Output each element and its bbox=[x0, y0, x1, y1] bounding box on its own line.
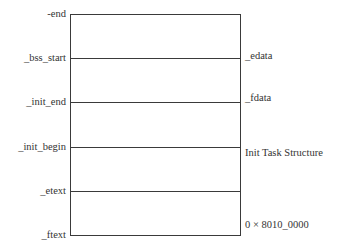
label-edata: _edata bbox=[245, 50, 272, 62]
label-ftext: _ftext bbox=[42, 229, 67, 241]
boundary-init-begin bbox=[70, 147, 241, 148]
label-bss-start: _bss_start bbox=[24, 52, 66, 64]
label-etext: _etext bbox=[40, 185, 66, 197]
memory-region-box bbox=[70, 14, 241, 236]
label-init-end: _init_end bbox=[26, 96, 66, 108]
label-base-address: 0 × 8010_0000 bbox=[245, 219, 309, 231]
label-init-begin: _init_begin bbox=[18, 141, 66, 153]
boundary-etext bbox=[70, 191, 241, 192]
label-fdata: _fdata bbox=[245, 92, 271, 104]
boundary-bss-start bbox=[70, 58, 241, 59]
label-end: -end bbox=[47, 8, 66, 20]
boundary-init-end bbox=[70, 102, 241, 103]
label-init-task-structure: Init Task Structure bbox=[245, 147, 323, 159]
